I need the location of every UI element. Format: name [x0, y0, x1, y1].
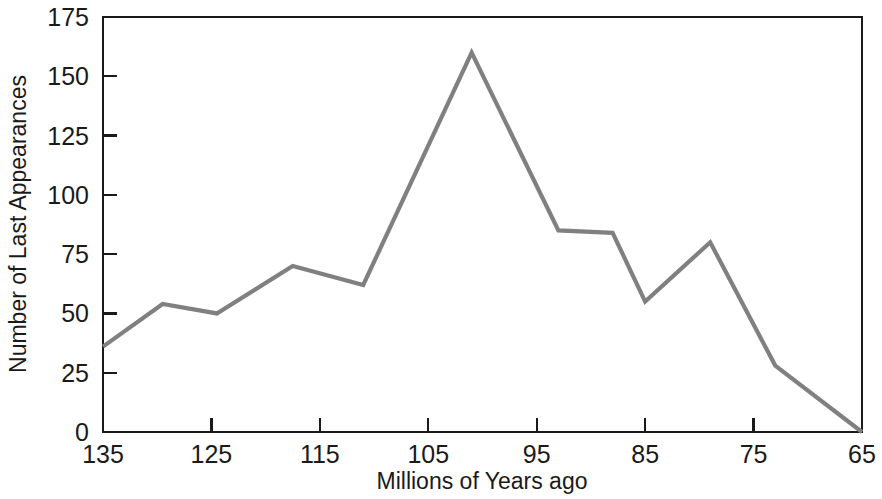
y-tick-label: 125 — [47, 122, 89, 150]
y-tick-label: 25 — [61, 359, 89, 387]
x-tick-label: 115 — [300, 440, 340, 468]
y-tick-label: 50 — [61, 299, 89, 327]
y-axis-title: Number of Last Appearances — [5, 75, 31, 373]
x-tick-label: 85 — [631, 440, 659, 468]
x-tick-label: 105 — [407, 440, 449, 468]
line-chart: 0255075100125150175 13512511510595857565… — [0, 0, 882, 499]
x-tick-label: 125 — [191, 440, 233, 468]
x-tick-label: 65 — [848, 440, 876, 468]
y-tick-label: 100 — [47, 181, 89, 209]
data-series-line — [103, 53, 862, 432]
y-tick-label: 175 — [47, 3, 89, 31]
y-axis-ticks — [103, 76, 117, 372]
x-axis-ticks — [211, 418, 753, 432]
x-tick-label: 95 — [523, 440, 551, 468]
x-tick-label: 135 — [82, 440, 124, 468]
x-tick-label: 75 — [740, 440, 768, 468]
x-axis-title: Millions of Years ago — [377, 468, 588, 494]
chart-figure: 0255075100125150175 13512511510595857565… — [0, 0, 882, 499]
y-axis-tick-labels: 0255075100125150175 — [47, 3, 89, 446]
y-tick-label: 150 — [47, 62, 89, 90]
y-tick-label: 75 — [61, 240, 89, 268]
x-axis-tick-labels: 13512511510595857565 — [82, 440, 876, 468]
